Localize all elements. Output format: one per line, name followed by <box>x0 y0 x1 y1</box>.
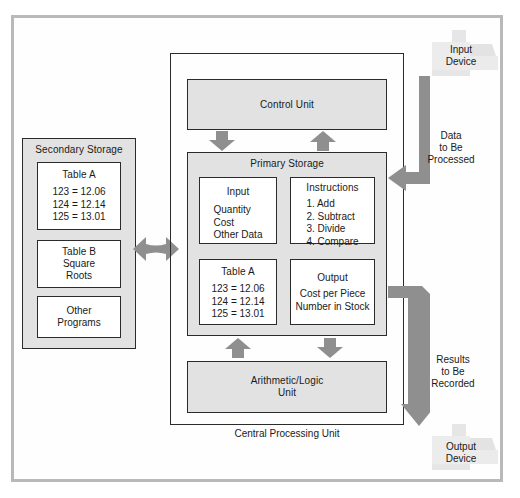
secondary-storage-table-b-line: Roots <box>66 270 92 283</box>
results-flow-line1: Results <box>418 354 488 366</box>
results-flow-line3: Recorded <box>418 378 488 390</box>
primary-storage-input-line: Other Data <box>214 229 263 242</box>
input-device-label-line2: Device <box>432 56 490 68</box>
primary-storage-table-a-row: 125 = 13.01 <box>211 308 264 321</box>
primary-storage-table-a-row: 123 = 12.06 <box>211 283 264 296</box>
arrow-control-to-storage-icon <box>209 131 235 151</box>
secondary-storage-table-b: Table B Square Roots <box>37 240 121 288</box>
secondary-storage-other-programs-line: Programs <box>57 317 100 330</box>
data-flow-line3: Processed <box>418 154 484 166</box>
secondary-storage-other-programs: Other Programs <box>37 296 121 338</box>
primary-storage-instruction-item: 3. Divide <box>306 223 358 236</box>
primary-storage-input-line: Cost <box>214 217 263 230</box>
alu-label-line1: Arithmetic/Logic <box>251 375 324 387</box>
primary-storage-table-a-cell: Table A 123 = 12.06 124 = 12.14 125 = 13… <box>199 259 277 325</box>
secondary-storage-table-a: Table A 123 = 12.06 124 = 12.14 125 = 13… <box>37 162 121 230</box>
primary-storage-output-cell: Output Cost per Piece Number in Stock <box>290 259 375 325</box>
secondary-storage-other-programs-line: Other <box>66 305 91 318</box>
output-device-label: Output Device <box>432 441 490 465</box>
secondary-storage-table-a-row: 124 = 12.14 <box>52 199 105 212</box>
alu-label-line2: Unit <box>278 387 296 399</box>
results-flow-label: Results to Be Recorded <box>418 354 488 390</box>
secondary-storage-title: Secondary Storage <box>22 144 136 156</box>
data-flow-line1: Data <box>418 130 484 142</box>
primary-storage-output-line: Cost per Piece <box>296 288 370 301</box>
primary-storage-input-title: Input <box>227 186 250 198</box>
primary-storage-instruction-item: 2. Subtract <box>306 211 358 224</box>
secondary-storage-table-a-title: Table A <box>62 169 96 181</box>
primary-storage-input-cell: Input Quantity Cost Other Data <box>199 177 277 244</box>
primary-storage-instructions-title: Instructions <box>306 182 358 194</box>
arithmetic-logic-unit-box: Arithmetic/Logic Unit <box>187 361 387 413</box>
cpu-label: Central Processing Unit <box>170 428 404 439</box>
data-flow-label: Data to Be Processed <box>418 130 484 166</box>
output-device-label-line2: Device <box>432 453 490 465</box>
data-flow-line2: to Be <box>418 142 484 154</box>
primary-storage-title: Primary Storage <box>187 158 387 170</box>
primary-storage-output-line: Number in Stock <box>296 301 370 314</box>
control-unit-label: Control Unit <box>260 99 314 111</box>
arrow-storage-to-alu-icon <box>317 338 343 358</box>
primary-storage-instruction-item: 1. Add <box>306 198 358 211</box>
control-unit-box: Control Unit <box>187 79 387 130</box>
primary-storage-output-title: Output <box>317 272 348 284</box>
primary-storage-instructions-cell: Instructions 1. Add 2. Subtract 3. Divid… <box>290 177 375 244</box>
arrow-storage-to-control-icon <box>310 131 336 151</box>
arrow-alu-to-storage-icon <box>225 338 251 358</box>
primary-storage-table-a-row: 124 = 12.14 <box>211 296 264 309</box>
secondary-storage-table-b-line: Square <box>63 258 95 271</box>
primary-storage-instruction-item: 4. Compare <box>306 236 358 249</box>
diagram-canvas: Secondary Storage Table A 123 = 12.06 12… <box>0 0 520 498</box>
output-device-label-line1: Output <box>432 441 490 453</box>
input-device-label: Input Device <box>432 44 490 68</box>
results-flow-line2: to Be <box>418 366 488 378</box>
input-device-label-line1: Input <box>432 44 490 56</box>
secondary-storage-table-b-title: Table B <box>62 246 96 258</box>
primary-storage-table-a-title: Table A <box>221 266 255 278</box>
primary-storage-input-line: Quantity <box>214 204 263 217</box>
secondary-storage-table-a-row: 125 = 13.01 <box>52 211 105 224</box>
secondary-storage-table-a-row: 123 = 12.06 <box>52 186 105 199</box>
